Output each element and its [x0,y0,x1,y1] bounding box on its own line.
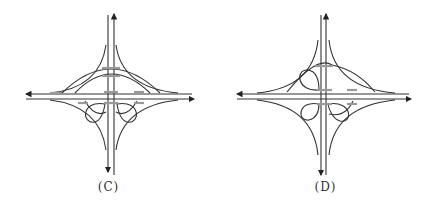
interchange-diagram-d [217,0,434,209]
panel-label-d: (D) [217,180,434,194]
interchange-diagram-c [0,0,217,209]
panel-label-c: (C) [0,180,217,194]
panel-d: (D) [217,0,434,209]
panel-c: (C) [0,0,217,209]
